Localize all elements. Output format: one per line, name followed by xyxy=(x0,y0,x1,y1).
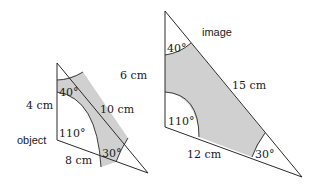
object-label: object xyxy=(17,134,46,146)
object-side-bottom: 8 cm xyxy=(65,154,93,167)
image-shaded-region xyxy=(165,43,265,157)
image-angle-bl: 110° xyxy=(168,115,195,128)
object-angle-br: 30° xyxy=(102,147,122,160)
image-triangle: 40° 110° 30° 6 cm 15 cm 12 cm image xyxy=(120,11,302,177)
image-label: image xyxy=(202,26,232,38)
image-angle-top: 40° xyxy=(167,42,187,55)
object-side-hyp: 10 cm xyxy=(100,103,135,116)
object-angle-top: 40° xyxy=(59,86,79,99)
object-angle-bl: 110° xyxy=(59,127,86,140)
similar-triangles-diagram: 40° 110° 30° 4 cm 10 cm 8 cm object 40° … xyxy=(0,0,315,187)
object-side-left: 4 cm xyxy=(26,99,54,112)
image-side-left: 6 cm xyxy=(120,69,148,82)
image-side-bottom: 12 cm xyxy=(187,148,222,161)
image-angle-br: 30° xyxy=(255,148,275,161)
image-side-hyp: 15 cm xyxy=(232,79,267,92)
